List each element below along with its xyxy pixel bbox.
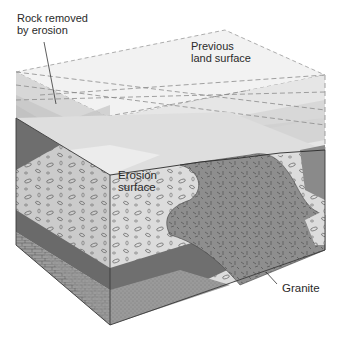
label-previous-land-surface: Previous land surface bbox=[191, 40, 251, 64]
label-rock-removed: Rock removed by erosion bbox=[17, 12, 88, 36]
granite-leader bbox=[266, 272, 277, 284]
label-erosion-surface: Erosion surface bbox=[118, 169, 157, 193]
label-granite: Granite bbox=[282, 282, 320, 294]
